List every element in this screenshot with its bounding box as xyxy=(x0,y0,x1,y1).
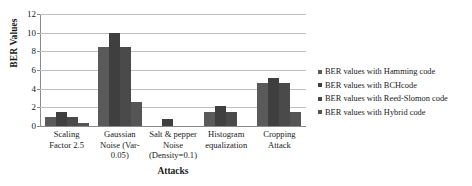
x-axis-label-line: 0.05) xyxy=(94,150,145,161)
bar xyxy=(162,119,173,126)
x-axis-label: CroppingAttack xyxy=(253,129,306,161)
x-axis-label: Histogramequalization xyxy=(200,129,253,161)
gridline-0 xyxy=(40,126,306,127)
legend-item[interactable]: BER values with BCHcode xyxy=(318,81,470,90)
x-axis-label-line: Cropping xyxy=(254,129,305,140)
bar-groups xyxy=(40,14,306,126)
bar xyxy=(78,123,89,126)
y-tick-label-2: 2 xyxy=(2,103,36,112)
y-axis-tick-labels: 024681012 xyxy=(0,14,36,126)
x-axis-label-line: Attack xyxy=(254,140,305,151)
bar-group xyxy=(40,14,93,126)
x-axis-label: ScalingFactor 2.5 xyxy=(40,129,93,161)
legend-item[interactable]: BER values with Hamming code xyxy=(318,67,470,76)
chart-legend: BER values with Hamming codeBER values w… xyxy=(318,67,470,121)
x-axis-label-line: Noise (Var- xyxy=(94,140,145,151)
bar xyxy=(204,112,215,126)
bar xyxy=(279,83,290,126)
bar xyxy=(290,112,301,126)
bar-group xyxy=(253,14,306,126)
y-tick-label-4: 4 xyxy=(2,84,36,93)
y-tick-label-12: 12 xyxy=(2,10,36,19)
bar xyxy=(131,102,142,126)
legend-swatch-icon xyxy=(318,110,322,114)
x-axis-label-line: (Density=0.1) xyxy=(147,150,198,161)
bar xyxy=(109,33,120,126)
x-axis-label-line: Histogram xyxy=(201,129,252,140)
bar xyxy=(226,112,237,126)
x-axis-label-line: Scaling xyxy=(41,129,92,140)
legend-item[interactable]: BER values with Hybrid code xyxy=(318,108,470,117)
legend-swatch-icon xyxy=(318,70,322,74)
x-axis-label-line: Salt & pepper xyxy=(147,129,198,140)
bar xyxy=(120,47,131,126)
y-tick-label-8: 8 xyxy=(2,47,36,56)
x-axis-label-line: Gaussian xyxy=(94,129,145,140)
bar-chart-figure: BER Values 024681012 ScalingFactor 2.5Ga… xyxy=(0,0,472,186)
x-axis-category-labels: ScalingFactor 2.5GaussianNoise (Var-0.05… xyxy=(40,129,306,161)
x-axis-label-line: Noise xyxy=(147,140,198,151)
bar xyxy=(56,112,67,126)
legend-label: BER values with Reed-Slomon code xyxy=(325,94,448,103)
bar xyxy=(268,78,279,126)
x-axis-label: GaussianNoise (Var-0.05) xyxy=(93,129,146,161)
bar xyxy=(98,47,109,126)
bar xyxy=(67,117,78,126)
y-tick-label-0: 0 xyxy=(2,122,36,131)
legend-label: BER values with BCHcode xyxy=(325,81,417,90)
legend-label: BER values with Hamming code xyxy=(325,67,435,76)
x-axis-label-line: equalization xyxy=(201,140,252,151)
x-axis-title: Attacks xyxy=(40,166,306,176)
legend-label: BER values with Hybrid code xyxy=(325,108,425,117)
legend-item[interactable]: BER values with Reed-Slomon code xyxy=(318,94,470,103)
bar-group xyxy=(146,14,199,126)
bar-group xyxy=(200,14,253,126)
plot-area xyxy=(40,14,306,126)
legend-swatch-icon xyxy=(318,97,322,101)
y-tick-label-6: 6 xyxy=(2,66,36,75)
y-tick-label-10: 10 xyxy=(2,28,36,37)
x-axis-label-line: Factor 2.5 xyxy=(41,140,92,151)
bar-group xyxy=(93,14,146,126)
bar xyxy=(257,83,268,126)
legend-swatch-icon xyxy=(318,83,322,87)
bar xyxy=(45,117,56,126)
x-axis-label: Salt & pepperNoise(Density=0.1) xyxy=(146,129,199,161)
bar xyxy=(215,106,226,126)
